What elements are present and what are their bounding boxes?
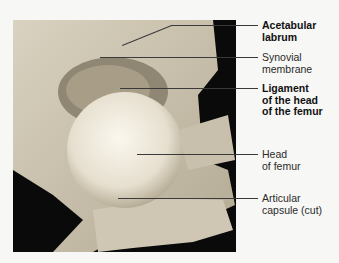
label-line: labrum bbox=[262, 32, 316, 44]
label-line: Head bbox=[262, 149, 301, 161]
label-line: of the femur bbox=[262, 106, 323, 118]
leader-line-ligament bbox=[120, 88, 258, 89]
hip-joint-illustration bbox=[13, 20, 236, 252]
label-ligament-head-femur: Ligament of the head of the femur bbox=[262, 83, 323, 118]
label-acetabular-labrum: Acetabular labrum bbox=[262, 20, 316, 43]
leader-line-head-of-femur bbox=[137, 154, 258, 155]
leader-line-synovial-membrane bbox=[100, 57, 258, 58]
leader-line-articular-capsule bbox=[118, 198, 258, 199]
label-line: capsule (cut) bbox=[262, 205, 322, 217]
label-head-of-femur: Head of femur bbox=[262, 149, 301, 172]
label-line: Articular bbox=[262, 193, 322, 205]
label-line: Acetabular bbox=[262, 20, 316, 32]
label-line: Ligament bbox=[262, 83, 323, 95]
leader-line-acetabular-labrum bbox=[172, 25, 258, 26]
label-line: of femur bbox=[262, 161, 301, 173]
label-line: Synovial bbox=[262, 52, 312, 64]
dissection-photo bbox=[13, 20, 236, 252]
label-articular-capsule: Articular capsule (cut) bbox=[262, 193, 322, 216]
label-line: membrane bbox=[262, 64, 312, 76]
label-synovial-membrane: Synovial membrane bbox=[262, 52, 312, 75]
